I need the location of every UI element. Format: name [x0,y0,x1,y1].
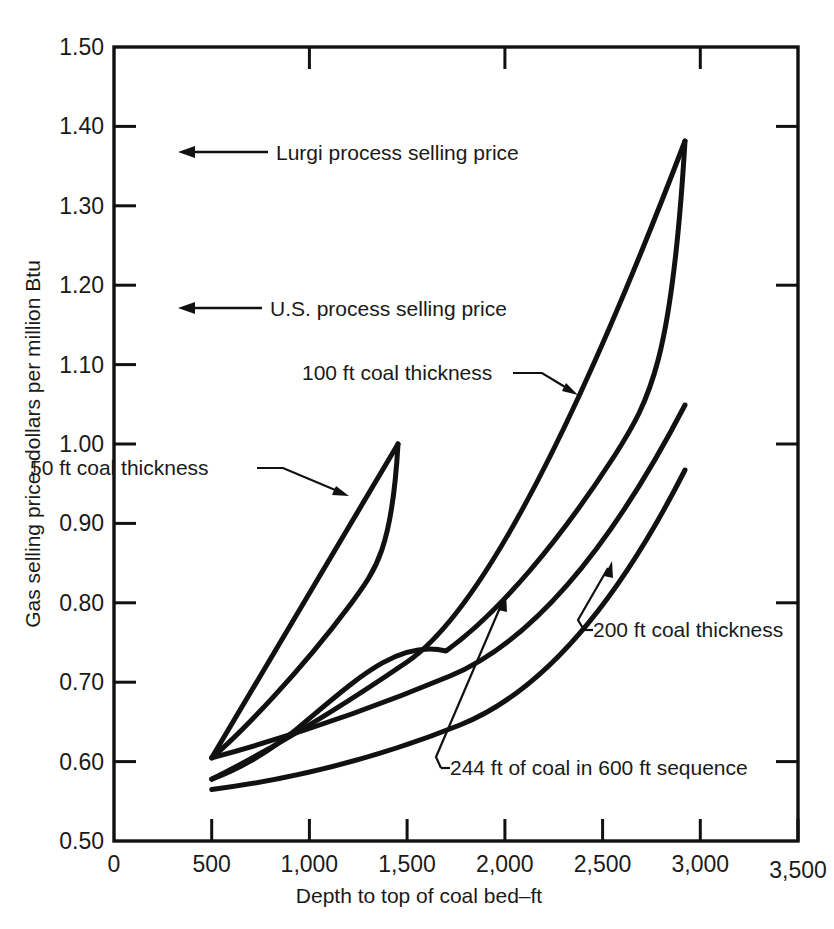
annotation-us-process-label: U.S. process selling price [270,297,507,320]
x-axis-ticks-top [309,47,700,69]
y-tick-labels: 1.50 1.40 1.30 1.20 1.10 1.00 0.90 0.80 … [59,34,104,854]
y-tick-label: 1.30 [59,193,104,219]
arrow-head-icon [604,561,613,578]
y-tick-label: 1.50 [59,34,104,60]
annotation-50ft-label: 50 ft coal thickness [30,456,209,479]
y-tick-label: 1.00 [59,431,104,457]
arrow-head-icon [562,383,578,395]
annotation-us-process: U.S. process selling price [178,297,507,320]
y-tick-label: 0.70 [59,669,104,695]
gas-selling-price-chart: 1.50 1.40 1.30 1.20 1.10 1.00 0.90 0.80 … [0,0,834,929]
annotation-50ft-coal-thickness: 50 ft coal thickness [30,456,349,496]
y-tick-label: 1.10 [59,352,104,378]
x-axis-ticks [212,819,798,841]
annotation-200ft-coal-thickness: 200 ft coal thickness [578,561,783,641]
annotation-100ft-coal-thickness: 100 ft coal thickness [302,361,578,395]
y-tick-label: 1.20 [59,272,104,298]
plot-frame [114,47,798,841]
x-tick-label: 2,500 [574,851,632,877]
x-tick-label: 1,500 [378,851,436,877]
annotation-lurgi-label: Lurgi process selling price [276,141,519,164]
chart-page: 1.50 1.40 1.30 1.20 1.10 1.00 0.90 0.80 … [0,0,834,929]
curve-50ft-coal-thickness [212,444,398,758]
x-tick-label: 3,500 [769,857,827,883]
y-tick-label: 0.60 [59,749,104,775]
y-tick-label: 0.80 [59,590,104,616]
y-axis-ticks [114,126,136,761]
y-axis-title: Gas selling price–dollars per million Bt… [21,260,44,628]
x-tick-label: 500 [193,851,231,877]
annotation-200ft-label: 200 ft coal thickness [593,618,783,641]
y-tick-label: 0.90 [59,510,104,536]
x-axis-title: Depth to top of coal bed–ft [296,884,543,907]
arrow-left-icon [178,146,195,158]
x-tick-label: 1,000 [281,851,339,877]
x-tick-label: 0 [108,851,121,877]
y-axis-ticks-right [776,126,798,761]
arrow-head-icon [332,486,349,496]
x-tick-label: 2,000 [476,851,534,877]
annotation-lurgi-process: Lurgi process selling price [178,141,519,164]
y-tick-label: 1.40 [59,113,104,139]
x-tick-labels: 0 500 1,000 1,500 2,000 2,500 3,000 3,50… [108,851,827,883]
annotation-100ft-label: 100 ft coal thickness [302,361,492,384]
annotation-244ft-label: 244 ft of coal in 600 ft sequence [450,756,748,779]
y-tick-label: 0.50 [59,828,104,854]
x-tick-label: 3,000 [672,851,730,877]
arrow-left-icon [178,302,195,314]
